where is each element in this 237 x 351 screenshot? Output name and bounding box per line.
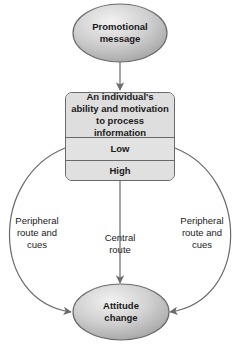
processing-ability-box: An individual's ability and motivation t…	[65, 92, 175, 181]
high-row: High	[66, 160, 174, 180]
central-route-label: Central route	[92, 232, 148, 256]
attitude-change-label: Attitude change	[81, 300, 161, 324]
processing-ability-header: An individual's ability and motivation t…	[66, 93, 174, 137]
low-row: Low	[66, 137, 174, 160]
left-peripheral-route-label: Peripheral route and cues	[10, 215, 64, 251]
right-peripheral-route-label: Peripheral route and cues	[174, 215, 230, 251]
promotional-message-label: Promotional message	[73, 21, 167, 45]
